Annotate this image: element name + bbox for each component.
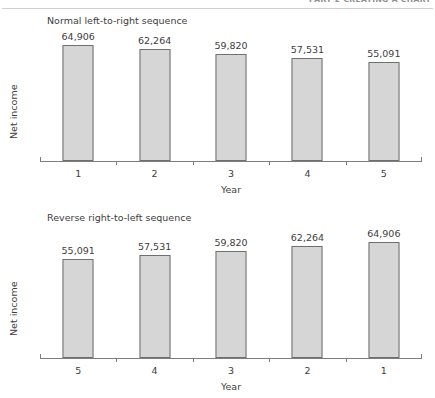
bar-value-label: 59,820 (214, 40, 247, 51)
bar-slot: 59,820 (193, 32, 269, 161)
bar-slot: 62,264 (116, 32, 192, 161)
bar-slot: 57,531 (116, 229, 192, 358)
x-axis (40, 358, 422, 364)
axis-separator-tick (346, 358, 347, 362)
plot-area: 64,90662,26459,82057,53155,091 (40, 32, 422, 161)
bar-slot: 57,531 (269, 32, 345, 161)
bar-value-label: 55,091 (62, 245, 95, 256)
x-tick-label: 2 (269, 365, 345, 376)
bar-value-label: 57,531 (138, 241, 171, 252)
bar-series: 64,90662,26459,82057,53155,091 (40, 32, 422, 161)
bar-slot: 55,091 (40, 229, 116, 358)
y-axis-label: Net income (6, 64, 20, 160)
x-tick-labels: 54321 (40, 365, 422, 376)
axis-separator-tick (116, 358, 117, 362)
running-head: PART 2 CREATING A CHART (309, 0, 431, 4)
x-tick-label: 2 (116, 168, 192, 179)
page-header: PART 2 CREATING A CHART (0, 0, 435, 10)
bar-slot: 59,820 (193, 229, 269, 358)
axis-end-tick (421, 157, 422, 162)
bar-slot: 64,906 (40, 32, 116, 161)
x-axis-label: Year (40, 381, 422, 392)
bar (216, 54, 247, 161)
axis-line (40, 161, 422, 162)
x-tick-label: 5 (40, 365, 116, 376)
axis-separator-tick (193, 161, 194, 165)
x-axis-label: Year (40, 184, 422, 195)
axis-end-tick (421, 354, 422, 359)
bar (216, 251, 247, 358)
x-tick-label: 1 (346, 365, 422, 376)
bar-value-label: 64,906 (367, 228, 400, 239)
chart-title: Reverse right-to-left sequence (47, 212, 191, 223)
bar-series: 55,09157,53159,82062,26464,906 (40, 229, 422, 358)
bar (292, 58, 323, 161)
bar-value-label: 62,264 (138, 35, 171, 46)
bar (63, 45, 94, 161)
bar-value-label: 64,906 (62, 31, 95, 42)
bar-value-label: 62,264 (291, 232, 324, 243)
y-axis-label: Net income (6, 261, 20, 357)
axis-separator-tick (269, 358, 270, 362)
x-tick-labels: 12345 (40, 168, 422, 179)
axis-separator-tick (269, 161, 270, 165)
x-tick-label: 5 (346, 168, 422, 179)
bar-slot: 55,091 (346, 32, 422, 161)
bar (139, 255, 170, 358)
chart-panel-reverse-sequence: Reverse right-to-left sequence Net incom… (0, 209, 435, 398)
x-tick-label: 1 (40, 168, 116, 179)
x-axis (40, 161, 422, 167)
chart-panel-normal-sequence: Normal left-to-right sequence Net income… (0, 12, 435, 202)
bar-value-label: 57,531 (291, 44, 324, 55)
plot-area: 55,09157,53159,82062,26464,906 (40, 229, 422, 358)
header-rule (2, 8, 433, 9)
axis-end-tick (40, 157, 41, 162)
chart-title: Normal left-to-right sequence (47, 15, 187, 26)
x-tick-label: 3 (193, 168, 269, 179)
bar (63, 259, 94, 358)
x-tick-label: 4 (116, 365, 192, 376)
bar (368, 62, 399, 161)
bar (368, 242, 399, 358)
bar-value-label: 59,820 (214, 237, 247, 248)
x-tick-label: 3 (193, 365, 269, 376)
bar-value-label: 55,091 (367, 48, 400, 59)
axis-separator-tick (346, 161, 347, 165)
bar-slot: 62,264 (269, 229, 345, 358)
axis-end-tick (40, 354, 41, 359)
axis-separator-tick (193, 358, 194, 362)
bar (139, 49, 170, 161)
bar (292, 246, 323, 358)
axis-line (40, 358, 422, 359)
bar-slot: 64,906 (346, 229, 422, 358)
axis-separator-tick (116, 161, 117, 165)
x-tick-label: 4 (269, 168, 345, 179)
